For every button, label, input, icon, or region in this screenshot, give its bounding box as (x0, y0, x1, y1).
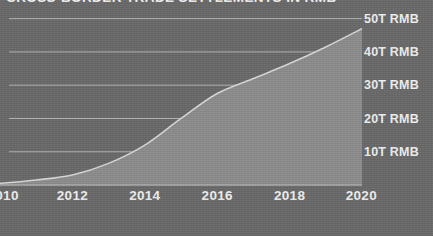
y-axis-label: 30T RMB (364, 78, 419, 92)
x-axis-label: 2014 (129, 188, 160, 203)
x-axis-labels: 201020122014201620182020 (0, 188, 433, 210)
chart-title: CROSS-BORDER TRADE SETTLEMENTS IN RMB (6, 0, 337, 5)
x-axis-label: 2012 (57, 188, 88, 203)
y-axis-label: 10T RMB (364, 145, 419, 159)
area-chart-svg (0, 12, 362, 186)
x-axis-label: 2016 (202, 188, 233, 203)
x-axis-label: 2010 (0, 188, 19, 203)
y-axis-label: 40T RMB (364, 45, 419, 59)
x-axis-label: 2018 (274, 188, 305, 203)
y-axis-label: 50T RMB (364, 12, 419, 26)
y-axis-label: 20T RMB (364, 112, 419, 126)
y-axis-labels: 50T RMB40T RMB30T RMB20T RMB10T RMB (364, 12, 433, 186)
plot-area (0, 12, 362, 186)
x-axis-label: 2020 (346, 188, 377, 203)
chart-container: CROSS-BORDER TRADE SETTLEMENTS IN RMB 50… (0, 0, 433, 236)
